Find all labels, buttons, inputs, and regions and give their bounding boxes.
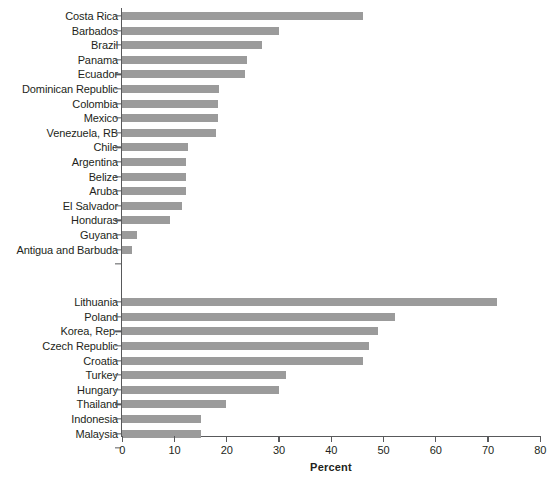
y-axis-tick bbox=[115, 404, 121, 405]
y-axis-tick bbox=[115, 176, 121, 177]
bar-row: Thailand bbox=[0, 397, 558, 412]
category-label: Thailand bbox=[77, 399, 118, 410]
bar-row: Turkey bbox=[0, 368, 558, 383]
category-label: Lithuania bbox=[74, 297, 118, 308]
bar bbox=[122, 313, 395, 321]
bar bbox=[122, 371, 286, 379]
category-label: Brazil bbox=[91, 40, 118, 51]
x-axis-tick-label: 50 bbox=[377, 444, 389, 456]
y-axis-tick bbox=[115, 74, 121, 75]
category-label: Korea, Rep. bbox=[60, 326, 118, 337]
bar bbox=[122, 415, 201, 423]
category-label: Poland bbox=[84, 311, 118, 322]
y-axis-tick bbox=[115, 375, 121, 376]
bar bbox=[122, 158, 186, 166]
category-label: Antigua and Barbuda bbox=[17, 244, 118, 255]
x-axis-tick-label: 70 bbox=[482, 444, 494, 456]
bar bbox=[122, 114, 218, 122]
category-label: Indonesia bbox=[71, 413, 118, 424]
y-axis-tick bbox=[115, 45, 121, 46]
x-axis-tick bbox=[226, 436, 227, 442]
y-axis-tick bbox=[115, 132, 121, 133]
bar-row-spacer bbox=[0, 257, 558, 272]
bar-row: Indonesia bbox=[0, 412, 558, 427]
bar bbox=[122, 56, 247, 64]
category-label: Malaysia bbox=[75, 428, 118, 439]
category-label: Czech Republic bbox=[42, 340, 118, 351]
bar-row: Mexico bbox=[0, 111, 558, 126]
category-label: Ecuador bbox=[78, 69, 118, 80]
bar-row: Poland bbox=[0, 309, 558, 324]
bar-row: Honduras bbox=[0, 213, 558, 228]
bar bbox=[122, 12, 363, 20]
x-axis-tick-label: 40 bbox=[325, 444, 337, 456]
y-axis-tick bbox=[115, 59, 121, 60]
y-axis-tick bbox=[115, 103, 121, 104]
x-axis-tick bbox=[487, 436, 488, 442]
bar bbox=[122, 27, 278, 35]
bar bbox=[122, 41, 262, 49]
category-label: Barbados bbox=[72, 25, 118, 36]
bar-row: El Salvador bbox=[0, 199, 558, 214]
bar-row: Croatia bbox=[0, 353, 558, 368]
plot-area: Costa RicaBarbadosBrazilPanamaEcuadorDom… bbox=[0, 0, 558, 440]
x-axis-tick-label: 20 bbox=[221, 444, 233, 456]
x-axis-tick-label: 80 bbox=[534, 444, 546, 456]
bar bbox=[122, 202, 182, 210]
y-axis-tick bbox=[115, 316, 121, 317]
category-label: Dominican Republic bbox=[22, 83, 118, 94]
bar bbox=[122, 70, 245, 78]
bar-row: Aruba bbox=[0, 184, 558, 199]
y-axis-tick bbox=[115, 264, 121, 265]
bar-row: Barbados bbox=[0, 23, 558, 38]
x-axis-tick bbox=[174, 436, 175, 442]
bar bbox=[122, 231, 137, 239]
y-axis-tick bbox=[115, 418, 121, 419]
category-label: Turkey bbox=[85, 370, 118, 381]
bar-row: Chile bbox=[0, 140, 558, 155]
y-axis-tick bbox=[115, 249, 121, 250]
bar bbox=[122, 100, 218, 108]
bar-row: Czech Republic bbox=[0, 339, 558, 354]
x-axis-tick-label: 30 bbox=[273, 444, 285, 456]
bar bbox=[122, 173, 186, 181]
x-axis-tick-label: 60 bbox=[430, 444, 442, 456]
category-label: Honduras bbox=[71, 215, 118, 226]
bar-row: Lithuania bbox=[0, 295, 558, 310]
bar bbox=[122, 342, 369, 350]
y-axis-tick bbox=[115, 433, 121, 434]
bar bbox=[122, 357, 363, 365]
bar-row: Korea, Rep. bbox=[0, 324, 558, 339]
bar bbox=[122, 216, 170, 224]
bar-row: Guyana bbox=[0, 228, 558, 243]
y-axis-tick bbox=[115, 118, 121, 119]
y-axis-tick bbox=[115, 147, 121, 148]
bar-row: Venezuela, RB bbox=[0, 126, 558, 141]
x-axis-title: Percent bbox=[0, 461, 558, 473]
bar-row: Costa Rica bbox=[0, 9, 558, 24]
y-axis-tick bbox=[115, 30, 121, 31]
x-axis-tick bbox=[122, 436, 123, 442]
category-label: Venezuela, RB bbox=[47, 127, 118, 138]
x-axis-tick bbox=[540, 436, 541, 442]
x-axis-tick-label: 0 bbox=[119, 444, 125, 456]
category-label: Panama bbox=[78, 54, 118, 65]
bar bbox=[122, 400, 226, 408]
x-axis-tick-label: 10 bbox=[168, 444, 180, 456]
category-label: Croatia bbox=[83, 355, 118, 366]
bar-row: Ecuador bbox=[0, 67, 558, 82]
y-axis-tick bbox=[115, 331, 121, 332]
bar bbox=[122, 386, 279, 394]
bar-row: Brazil bbox=[0, 38, 558, 53]
category-label: El Salvador bbox=[63, 200, 118, 211]
y-axis-tick bbox=[115, 88, 121, 89]
bar-row: Hungary bbox=[0, 382, 558, 397]
bar-chart: Costa RicaBarbadosBrazilPanamaEcuadorDom… bbox=[0, 0, 558, 483]
bar bbox=[122, 129, 216, 137]
y-axis-tick bbox=[115, 205, 121, 206]
y-axis-tick bbox=[115, 15, 121, 16]
y-axis-tick bbox=[115, 220, 121, 221]
category-label: Aruba bbox=[89, 186, 118, 197]
bar bbox=[122, 187, 186, 195]
bar bbox=[122, 143, 187, 151]
